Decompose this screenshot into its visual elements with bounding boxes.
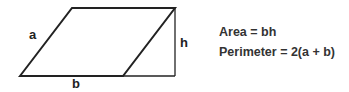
area-formula: Area = bh xyxy=(219,25,276,39)
parallelogram-shape xyxy=(20,8,175,76)
height-label: h xyxy=(180,35,188,50)
side-label: a xyxy=(29,27,36,42)
base-label: b xyxy=(72,76,80,91)
perimeter-formula: Perimeter = 2(a + b) xyxy=(219,45,335,59)
